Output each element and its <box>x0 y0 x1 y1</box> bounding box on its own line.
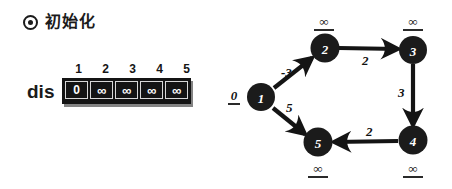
page-title: 初始化 <box>45 14 96 30</box>
figure-root: 初始化 dis 1 2 3 4 5 0 ∞ ∞ ∞ ∞ <box>0 0 452 189</box>
dis-array-indices: 1 2 3 4 5 <box>65 62 200 76</box>
node-3-label: 3 <box>409 44 417 59</box>
dis-cell: ∞ <box>90 81 113 99</box>
dist-label-node-4: ∞ <box>403 163 423 178</box>
dis-cell: ∞ <box>140 81 163 99</box>
edge-1-2 <box>274 58 312 88</box>
dis-array-label: dis <box>27 82 54 102</box>
dis-cell: ∞ <box>165 81 188 99</box>
edge-weight-3-4: 3 <box>398 86 405 99</box>
graph-node-labels: 1 2 3 4 5 <box>258 42 417 151</box>
target-bullet-icon <box>23 15 38 30</box>
edge-4-5 <box>334 141 398 142</box>
dist-label-node-5: ∞ <box>308 163 328 178</box>
edge-2-3 <box>339 48 398 49</box>
dis-index: 2 <box>92 62 119 76</box>
dist-label-node-1: 0 <box>228 90 240 105</box>
edge-weight-2-3: 2 <box>362 54 369 67</box>
node-2-label: 2 <box>321 42 329 57</box>
edge-weight-4-5: 2 <box>366 125 373 138</box>
dist-label-node-3: ∞ <box>403 16 423 31</box>
dis-cell: 0 <box>65 81 88 99</box>
graph-panel: 1 2 3 4 5 -3 2 3 2 5 0 ∞ ∞ ∞ ∞ <box>226 0 452 189</box>
node-5-label: 5 <box>315 136 322 151</box>
dist-label-node-2: ∞ <box>314 16 334 31</box>
dis-array-cells: 0 ∞ ∞ ∞ ∞ <box>62 78 191 104</box>
dis-index: 4 <box>146 62 173 76</box>
dis-index: 1 <box>65 62 92 76</box>
dis-index: 5 <box>173 62 200 76</box>
edge-weight-1-5: 5 <box>286 101 293 114</box>
edge-weight-1-2: -3 <box>281 66 292 79</box>
node-4-label: 4 <box>409 134 417 149</box>
dis-cell: ∞ <box>115 81 138 99</box>
dis-index: 3 <box>119 62 146 76</box>
section-header: 初始化 <box>23 14 96 30</box>
initialization-panel: 初始化 dis 1 2 3 4 5 0 ∞ ∞ ∞ ∞ <box>0 0 226 189</box>
node-1-label: 1 <box>258 91 265 106</box>
